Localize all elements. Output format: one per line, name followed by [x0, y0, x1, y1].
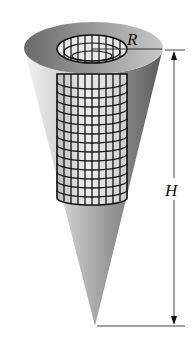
height-label: H	[164, 181, 179, 200]
cone-cylinder-diagram: R H	[0, 0, 194, 349]
diagram-canvas: R H	[0, 0, 194, 349]
radius-label: R	[126, 30, 138, 49]
arrow-down-icon	[171, 316, 177, 325]
arrow-up-icon	[171, 51, 177, 60]
